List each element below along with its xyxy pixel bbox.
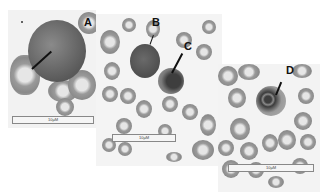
red-blood-cell bbox=[268, 176, 284, 188]
red-blood-cell bbox=[136, 100, 152, 118]
label-a: A bbox=[84, 16, 92, 28]
scale-bar-a: 10µM bbox=[12, 116, 94, 124]
red-blood-cell bbox=[192, 140, 214, 160]
red-blood-cell bbox=[240, 142, 258, 160]
red-blood-cell bbox=[228, 88, 246, 108]
red-blood-cell bbox=[182, 104, 198, 120]
red-blood-cell bbox=[292, 64, 312, 78]
red-blood-cell bbox=[262, 134, 278, 152]
red-blood-cell bbox=[56, 98, 74, 116]
red-blood-cell bbox=[298, 88, 314, 104]
red-blood-cell bbox=[218, 140, 234, 156]
red-blood-cell bbox=[200, 114, 216, 136]
label-c: C bbox=[184, 40, 192, 52]
red-blood-cell bbox=[122, 18, 136, 32]
red-blood-cell bbox=[102, 86, 118, 102]
red-blood-cell bbox=[104, 62, 120, 80]
marker-dot bbox=[21, 21, 23, 23]
red-blood-cell bbox=[202, 20, 216, 34]
label-b: B bbox=[152, 16, 160, 28]
panel-d: D 10µM bbox=[218, 64, 320, 192]
red-blood-cell bbox=[120, 88, 136, 104]
panel-bc: B C 10µM bbox=[96, 14, 222, 166]
red-blood-cell bbox=[166, 152, 182, 162]
red-blood-cell bbox=[230, 118, 250, 140]
red-blood-cell bbox=[218, 66, 238, 86]
red-blood-cell bbox=[100, 30, 120, 54]
leukocyte-d bbox=[256, 86, 286, 116]
leukocyte-a bbox=[28, 20, 86, 82]
red-blood-cell bbox=[118, 142, 132, 156]
red-blood-cell bbox=[116, 118, 132, 134]
panel-a: A 10µM bbox=[8, 10, 96, 128]
leukocyte-b bbox=[130, 44, 160, 78]
label-d: D bbox=[286, 64, 294, 76]
red-blood-cell bbox=[300, 134, 316, 150]
scale-bar-d: 10µM bbox=[228, 164, 314, 172]
red-blood-cell bbox=[238, 64, 260, 80]
red-blood-cell bbox=[196, 44, 212, 60]
red-blood-cell bbox=[162, 96, 178, 112]
red-blood-cell bbox=[294, 112, 312, 130]
red-blood-cell bbox=[278, 130, 296, 150]
scale-bar-bc: 10µM bbox=[112, 134, 176, 142]
